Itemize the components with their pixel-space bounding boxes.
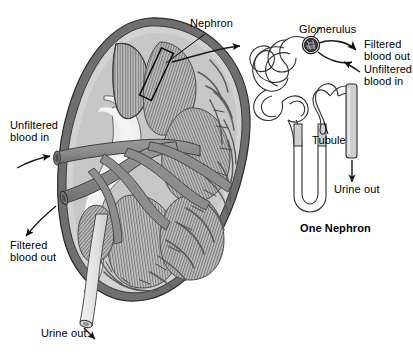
- unfiltered-in-arrow: [17, 156, 50, 168]
- henle-segment: [294, 124, 302, 146]
- filtered-out-arrow: [26, 206, 56, 236]
- renal-pyramid: [160, 196, 224, 280]
- tubule-loop: [290, 101, 305, 116]
- label-unfiltered-blood-in-left-line1: Unfiltered: [10, 119, 58, 132]
- tubule-loop: [253, 47, 288, 91]
- tubule-loop: [261, 96, 276, 117]
- collecting-duct: [346, 84, 357, 158]
- kidney-nephron-diagram: Nephron Glomerulus Filtered blood out Un…: [0, 0, 413, 354]
- label-tubule: Tubule: [312, 134, 346, 147]
- unfiltered-blood-arrow: [344, 62, 360, 72]
- label-filtered-blood-out-right-line1: Filtered: [364, 38, 401, 51]
- efferent-arteriole: [319, 41, 356, 50]
- label-urine-out-kidney: Urine out: [41, 327, 87, 340]
- label-unfiltered-blood-in-right-line2: blood in: [364, 75, 403, 88]
- kidney-cross-section: [54, 18, 250, 329]
- label-filtered-blood-out-left-line1: Filtered: [10, 239, 47, 252]
- label-filtered-blood-out-right-line2: blood out: [364, 50, 410, 63]
- label-filtered-blood-out-left-line2: blood out: [10, 251, 56, 264]
- diagram-artwork: [0, 0, 413, 354]
- label-unfiltered-blood-in-right-line1: Unfiltered: [364, 63, 412, 76]
- loop-of-henle: [302, 146, 318, 204]
- caption-one-nephron: One Nephron: [300, 222, 371, 235]
- tubule-descending: [288, 120, 294, 146]
- loop-of-henle: [294, 146, 326, 212]
- tubule-loop: [282, 96, 308, 122]
- label-glomerulus: Glomerulus: [299, 23, 356, 36]
- label-nephron: Nephron: [190, 17, 233, 30]
- afferent-arteriole: [318, 52, 352, 63]
- label-unfiltered-blood-in-left-line2: blood in: [10, 131, 49, 144]
- label-urine-out-nephron: Urine out: [334, 183, 380, 196]
